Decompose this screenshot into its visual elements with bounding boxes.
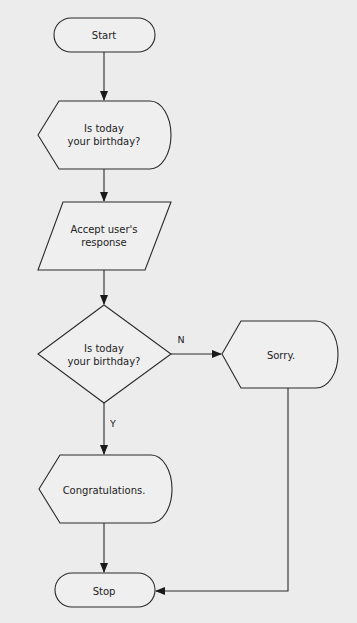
edge-label-no: N <box>177 334 184 345</box>
flowchart-graphics <box>0 0 357 623</box>
node-display1-label: Is today your birthday? <box>68 122 141 148</box>
flowchart-canvas: Start Is today your birthday? Accept use… <box>0 0 357 623</box>
node-congrats-label: Congratulations. <box>63 484 146 497</box>
edge-label-yes: Y <box>110 418 116 429</box>
node-input-label: Accept user's response <box>70 223 137 249</box>
edge-sorry-to-stop <box>156 388 288 591</box>
node-start-label: Start <box>92 29 116 42</box>
node-stop-label: Stop <box>93 585 116 598</box>
node-decision-label: Is today your birthday? <box>68 342 141 368</box>
node-sorry-label: Sorry. <box>267 349 295 362</box>
